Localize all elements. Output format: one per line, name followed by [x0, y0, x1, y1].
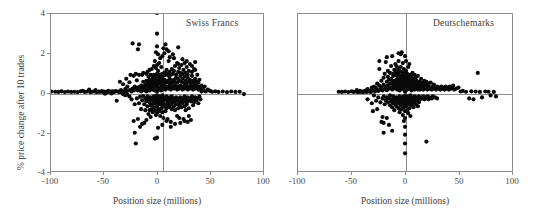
xtick-mark-right-2: [405, 172, 406, 175]
xtick-mark-right-3: [459, 172, 460, 175]
ytick-label-left-0: 4: [33, 8, 45, 18]
ytick-mark-left-3: [47, 133, 50, 134]
xtick-mark-left-3: [210, 172, 211, 175]
figure-container: Swiss Francs -100 -50 0 50 100 4 2 0 -2 …: [0, 0, 534, 219]
xtick-mark-left-1: [103, 172, 104, 175]
ytick-label-left-3: -2: [31, 128, 45, 138]
yaxis-title-left: % price change after 10 trades: [16, 55, 26, 170]
ytick-label-left-4: -4: [31, 167, 45, 177]
ytick-mark-left-4: [47, 172, 50, 173]
xtick-label-right-4: 100: [505, 176, 519, 186]
xtick-mark-left-2: [157, 172, 158, 175]
scatter-svg-right: [298, 14, 512, 171]
xtick-label-left-2: 0: [155, 176, 160, 186]
scatter-svg-left: [51, 14, 263, 171]
xaxis-title-left: Position size (millions): [113, 196, 201, 206]
panel-swiss-francs: Swiss Francs -100 -50 0 50 100 4 2 0 -2 …: [0, 0, 270, 219]
ytick-label-left-2: 0: [33, 88, 45, 98]
xtick-mark-left-4: [263, 172, 264, 175]
ytick-label-left-1: 2: [33, 48, 45, 58]
xtick-label-right-2: 0: [403, 176, 408, 186]
xtick-label-left-1: -50: [97, 176, 109, 186]
panel-title-right: Deutschemarks: [433, 18, 494, 28]
xtick-mark-right-1: [351, 172, 352, 175]
panel-deutschemarks: Deutschemarks -100 -50 0 50 100 Position…: [267, 0, 534, 219]
xtick-label-left-0: -100: [42, 176, 59, 186]
scatter-points-right: [298, 14, 512, 171]
plot-frame-right: [297, 13, 513, 172]
xtick-mark-right-0: [297, 172, 298, 175]
panel-title-left: Swiss Francs: [186, 18, 238, 28]
xtick-label-left-3: 50: [206, 176, 215, 186]
xaxis-title-right: Position size (millions): [361, 196, 449, 206]
xtick-label-right-0: -100: [289, 176, 306, 186]
ytick-mark-left-0: [47, 13, 50, 14]
ytick-mark-left-2: [47, 93, 50, 94]
plot-frame-left: [50, 13, 264, 172]
scatter-points-left: [51, 14, 263, 171]
xtick-label-right-1: -50: [345, 176, 357, 186]
xtick-mark-right-4: [512, 172, 513, 175]
xtick-mark-left-0: [50, 172, 51, 175]
xtick-label-right-3: 50: [455, 176, 464, 186]
ytick-mark-left-1: [47, 53, 50, 54]
